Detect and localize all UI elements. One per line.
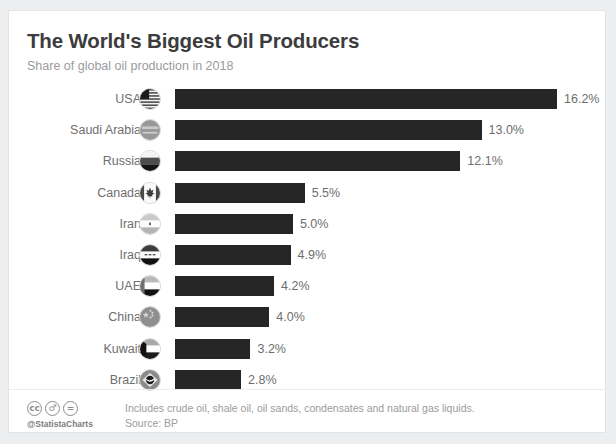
flag-iran-icon [139,213,161,235]
category-label-uae: UAE [8,275,141,297]
bar-row: China4.0% [9,306,605,328]
bar-value-label: 5.5% [312,182,341,204]
flag-iraq-icon [139,244,161,266]
chart-footer: cc ♂ = @StatistaCharts Includes crude oi… [27,401,593,431]
bar-uae [175,276,274,296]
bar-row: Kuwait3.2% [9,338,605,360]
bar-row: Canada5.5% [9,182,605,204]
bar-kuwait [175,339,250,359]
bar-row: Iraq4.9% [9,244,605,266]
chart-subtitle: Share of global oil production in 2018 [27,57,605,75]
bar-china [175,307,269,327]
flag-china-icon [139,306,161,328]
bar-value-label: 12.1% [467,150,502,172]
bar-value-label: 16.2% [564,88,599,110]
category-label-kuwait: Kuwait [8,338,141,360]
creative-commons-icons: cc ♂ = [27,401,111,416]
flag-saudi-arabia-icon [139,119,161,141]
bar-saudi-arabia [175,120,482,140]
bar-usa [175,89,557,109]
bar-canada [175,183,305,203]
cc-icon: cc [27,401,42,416]
chart-footnote: Includes crude oil, shale oil, oil sands… [125,401,593,416]
bar-value-label: 4.2% [281,275,310,297]
flag-usa-icon [139,88,161,110]
bar-value-label: 2.8% [248,369,277,391]
cc-by-person-icon: ♂ [45,401,60,416]
statista-handle: @StatistaCharts [27,419,111,429]
chart-card: The World's Biggest Oil Producers Share … [8,10,606,433]
category-label-canada: Canada [8,182,141,204]
bar-row: UAE4.2% [9,275,605,297]
flag-uae-icon [139,275,161,297]
bar-chart-plot: USA16.2%Saudi Arabia13.0%Russia12.1%Cana… [9,88,605,373]
bar-russia [175,151,460,171]
footer-divider [9,389,605,390]
bar-row: Brazil2.8% [9,369,605,391]
bar-value-label: 4.9% [298,244,327,266]
category-label-iraq: Iraq [8,244,141,266]
bar-iraq [175,245,291,265]
category-label-iran: Iran [8,213,141,235]
flag-kuwait-icon [139,338,161,360]
bar-brazil [175,370,241,390]
chart-header: The World's Biggest Oil Producers Share … [9,11,605,75]
flag-canada-icon [139,182,161,204]
category-label-russia: Russia [8,150,141,172]
creative-commons-block: cc ♂ = @StatistaCharts [27,401,111,429]
footer-text-block: Includes crude oil, shale oil, oil sands… [125,401,593,431]
category-label-china: China [8,306,141,328]
bar-value-label: 3.2% [257,338,286,360]
bar-iran [175,214,293,234]
cc-nd-equals-icon: = [63,401,78,416]
bar-row: Russia12.1% [9,150,605,172]
chart-source: Source: BP [125,416,593,431]
flag-russia-icon [139,150,161,172]
page-title: The World's Biggest Oil Producers [27,29,605,53]
bar-value-label: 4.0% [276,306,305,328]
category-label-saudi-arabia: Saudi Arabia [8,119,141,141]
flag-brazil-icon [139,369,161,391]
bar-value-label: 13.0% [489,119,524,141]
bar-row: Iran5.0% [9,213,605,235]
category-label-usa: USA [8,88,141,110]
category-label-brazil: Brazil [8,369,141,391]
bar-row: Saudi Arabia13.0% [9,119,605,141]
bar-row: USA16.2% [9,88,605,110]
bar-value-label: 5.0% [300,213,329,235]
